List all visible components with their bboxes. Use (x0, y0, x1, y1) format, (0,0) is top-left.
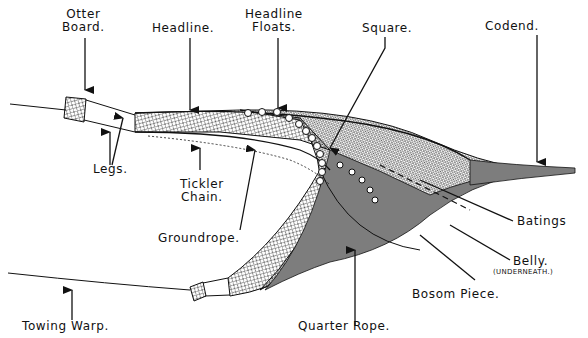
label-tickler-chain: Tickler Chain. (180, 178, 224, 204)
lower-otter-board (190, 282, 206, 301)
lower-towing-warp (8, 273, 190, 290)
label-headline-floats: Headline Floats. (245, 8, 303, 34)
upper-towing-warp (10, 104, 66, 110)
label-tickler-chain-line2: Chain. (181, 190, 223, 204)
label-headline-floats-line1: Headline (245, 7, 303, 21)
label-tickler-chain-line1: Tickler (180, 177, 224, 191)
upper-otter-board (64, 97, 86, 122)
label-codend: Codend. (485, 20, 539, 33)
label-towing-warp: Towing Warp. (22, 320, 109, 333)
label-headline: Headline. (152, 22, 214, 35)
label-belly: Belly. (UNDERNEATH.) (493, 255, 553, 276)
label-legs: Legs. (93, 163, 128, 176)
label-otter-board-line2: Board. (62, 20, 105, 34)
label-bosom-piece: Bosom Piece. (412, 288, 499, 301)
label-belly-main: Belly. (493, 254, 548, 268)
label-batings: Batings (517, 215, 566, 228)
codend (470, 160, 575, 185)
label-otter-board-line1: Otter (66, 7, 100, 21)
label-square: Square. (362, 22, 412, 35)
label-belly-note: (UNDERNEATH.) (493, 268, 553, 276)
trawl-net-illustration (0, 0, 588, 338)
label-otter-board: Otter Board. (62, 8, 105, 34)
label-headline-floats-line2: Floats. (252, 20, 296, 34)
label-groundrope: Groundrope. (158, 232, 240, 245)
label-quarter-rope: Quarter Rope. (298, 320, 390, 333)
trawl-net-diagram: Otter Board. Headline. Headline Floats. … (0, 0, 588, 338)
tickler-chain (148, 136, 330, 185)
